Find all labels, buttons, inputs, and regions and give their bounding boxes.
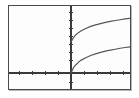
curve-lower xyxy=(71,47,130,73)
curve-upper xyxy=(71,18,130,42)
calculator-screen-frame xyxy=(8,5,131,90)
plot-canvas xyxy=(9,6,130,89)
screenshot-root xyxy=(0,0,139,98)
